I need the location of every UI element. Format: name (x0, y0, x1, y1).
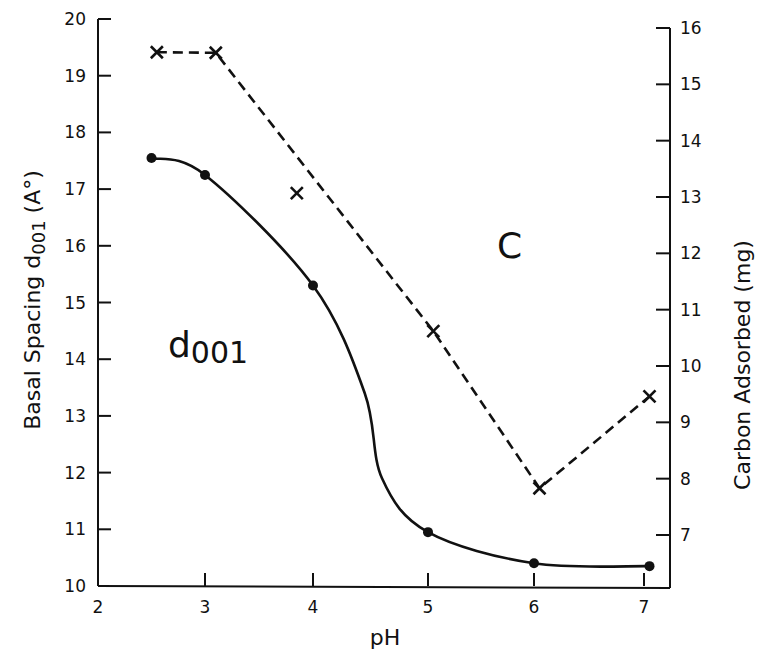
y-tick-label-left: 19 (64, 66, 86, 86)
x-tick-label: 2 (93, 597, 104, 617)
carbon-dashed-line (157, 52, 650, 488)
y-tick-label-right: 8 (680, 469, 691, 489)
y-tick-label-right: 13 (680, 187, 702, 207)
annotation-d001-sub: 001 (191, 335, 248, 370)
y-tick-label-right: 11 (680, 300, 702, 320)
x-tick-label: 3 (200, 597, 211, 617)
d001-point (308, 280, 318, 290)
carbon-x-marker (644, 390, 656, 402)
y-tick-label-left: 18 (64, 122, 86, 142)
y-tick-label-left: 15 (64, 293, 86, 313)
y-tick-label-left: 14 (64, 349, 86, 369)
y-axis-title-left-unit: (A°) (20, 170, 45, 220)
carbon-x-marker (427, 325, 439, 337)
x-tick-label: 6 (529, 597, 540, 617)
y-tick-label-right: 12 (680, 243, 702, 263)
y-tick-label-left: 12 (64, 463, 86, 483)
y-tick-label-right: 7 (680, 525, 691, 545)
y-axis-title-left-sub: 001 (28, 220, 49, 254)
series-layer (147, 46, 656, 571)
y-axis-title-left: Basal Spacing d001 (A°) (20, 170, 49, 430)
annotation-d001-main: d (168, 324, 191, 365)
x-tick-label: 5 (423, 597, 434, 617)
x-tick-label: 7 (639, 597, 650, 617)
carbon-x-marker (291, 187, 303, 199)
carbon-x-marker (534, 482, 546, 494)
y-tick-label-right: 14 (680, 131, 702, 151)
x-tick-label: 4 (308, 597, 319, 617)
y-tick-label-left: 17 (64, 179, 86, 199)
y-tick-label-right: 16 (680, 18, 702, 38)
y-tick-label-left: 13 (64, 406, 86, 426)
y-tick-label-right: 15 (680, 74, 702, 94)
y-axis-title-left-main: Basal Spacing d (20, 255, 45, 430)
x-axis-title: pH (370, 625, 401, 650)
x-axis-line (98, 586, 670, 588)
d001-point (423, 527, 433, 537)
annotation-d001: d001 (168, 324, 248, 370)
axes: 1011121314151617181920789101112131415162… (64, 9, 701, 617)
chart: 1011121314151617181920789101112131415162… (0, 0, 770, 662)
annotation-c: C (497, 225, 522, 266)
y-tick-label-left: 10 (64, 576, 86, 596)
d001-point (645, 561, 655, 571)
d001-point (147, 153, 157, 163)
y-tick-label-left: 20 (64, 9, 86, 29)
y-axis-title-right: Carbon Adsorbed (mg) (730, 240, 755, 490)
y-tick-label-right: 10 (680, 356, 702, 376)
d001-point (529, 558, 539, 568)
d001-point (200, 170, 210, 180)
y-tick-label-right: 9 (680, 412, 691, 432)
y-tick-label-left: 16 (64, 236, 86, 256)
y-tick-label-left: 11 (64, 519, 86, 539)
